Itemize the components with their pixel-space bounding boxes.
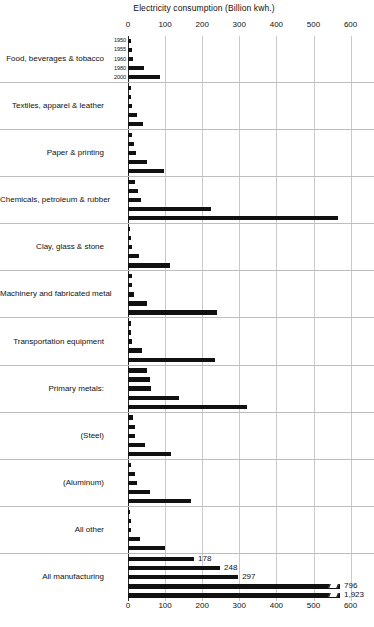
bar-row[interactable] (128, 272, 374, 281)
bar[interactable] (128, 510, 130, 514)
bar[interactable] (128, 452, 171, 456)
bar[interactable] (128, 207, 211, 211)
bar[interactable] (128, 86, 131, 90)
bar[interactable] (128, 274, 132, 278)
bar[interactable] (128, 339, 132, 343)
bar[interactable] (128, 189, 138, 193)
bar[interactable] (128, 405, 247, 409)
bar[interactable] (128, 216, 338, 220)
bar[interactable] (128, 133, 132, 137)
bar-row[interactable] (128, 375, 374, 384)
bar-row[interactable] (128, 73, 374, 82)
bar[interactable] (128, 75, 160, 79)
bar[interactable] (128, 415, 133, 419)
bar[interactable] (128, 396, 179, 400)
bar[interactable] (128, 368, 147, 372)
bar[interactable] (128, 377, 150, 381)
bar[interactable] (128, 557, 194, 561)
bar-row[interactable] (128, 402, 374, 411)
bar[interactable] (128, 292, 134, 296)
bar-row[interactable] (128, 496, 374, 505)
bar-row[interactable] (128, 131, 374, 140)
bar[interactable] (128, 180, 135, 184)
bar-row[interactable] (128, 281, 374, 290)
bar-row[interactable] (128, 384, 374, 393)
bar-row[interactable] (128, 158, 374, 167)
bar[interactable] (128, 142, 134, 146)
bar-row[interactable] (128, 55, 374, 64)
bar[interactable] (128, 358, 215, 362)
bar[interactable] (128, 434, 135, 438)
bar[interactable] (128, 245, 132, 249)
bar[interactable] (128, 169, 164, 173)
bar-row[interactable] (128, 290, 374, 299)
bar-row[interactable] (128, 261, 374, 270)
bar-row[interactable] (128, 102, 374, 111)
bar[interactable] (128, 584, 340, 588)
bar[interactable] (128, 236, 131, 240)
bar-row[interactable] (128, 252, 374, 261)
bar-row[interactable] (128, 460, 374, 469)
bar-row[interactable] (128, 478, 374, 487)
bar-row[interactable]: 1,923 (128, 591, 374, 600)
bar[interactable] (128, 463, 131, 467)
bar-row[interactable] (128, 422, 374, 431)
bar-row[interactable] (128, 337, 374, 346)
bar-row[interactable] (128, 366, 374, 375)
bar-row[interactable] (128, 449, 374, 458)
bar[interactable] (128, 57, 133, 61)
bar-row[interactable] (128, 534, 374, 543)
bar-row[interactable] (128, 178, 374, 187)
bar[interactable] (128, 321, 131, 325)
bar-row[interactable]: 796 (128, 582, 374, 591)
bar[interactable] (128, 66, 144, 70)
bar-row[interactable] (128, 440, 374, 449)
bar-row[interactable] (128, 319, 374, 328)
bar-row[interactable] (128, 487, 374, 496)
bar-row[interactable] (128, 431, 374, 440)
bar[interactable] (128, 566, 220, 570)
bar-row[interactable] (128, 205, 374, 214)
bar-row[interactable] (128, 111, 374, 120)
bar[interactable] (128, 472, 135, 476)
bar[interactable] (128, 95, 131, 99)
bar[interactable] (128, 263, 170, 267)
bar-row[interactable] (128, 36, 374, 45)
bar-row[interactable] (128, 45, 374, 54)
bar[interactable] (128, 575, 238, 579)
bar-row[interactable] (128, 214, 374, 223)
bar-row[interactable] (128, 93, 374, 102)
bar-row[interactable] (128, 543, 374, 552)
bar-row[interactable] (128, 516, 374, 525)
bar[interactable] (128, 48, 132, 52)
bar[interactable] (128, 104, 132, 108)
bar-row[interactable] (128, 225, 374, 234)
bar-row[interactable]: 297 (128, 573, 374, 582)
bar[interactable] (128, 330, 131, 334)
bar-row[interactable] (128, 328, 374, 337)
bar-row[interactable] (128, 355, 374, 364)
bar[interactable] (128, 348, 142, 352)
bar-row[interactable] (128, 525, 374, 534)
bar-row[interactable] (128, 346, 374, 355)
bar[interactable] (128, 254, 139, 258)
bar-row[interactable] (128, 308, 374, 317)
bar-row[interactable] (128, 413, 374, 422)
bar[interactable] (128, 386, 151, 390)
bar-row[interactable] (128, 120, 374, 129)
bar[interactable] (128, 537, 140, 541)
bar[interactable] (128, 301, 147, 305)
bar-row[interactable] (128, 507, 374, 516)
bar[interactable] (128, 593, 340, 597)
bar-row[interactable] (128, 243, 374, 252)
bar-row[interactable] (128, 84, 374, 93)
bar[interactable] (128, 528, 131, 532)
bar[interactable] (128, 499, 191, 503)
bar[interactable] (128, 198, 141, 202)
bar-row[interactable] (128, 469, 374, 478)
bar-row[interactable] (128, 167, 374, 176)
bar[interactable] (128, 519, 131, 523)
bar-row[interactable] (128, 187, 374, 196)
bar[interactable] (128, 160, 147, 164)
bar[interactable] (128, 122, 143, 126)
